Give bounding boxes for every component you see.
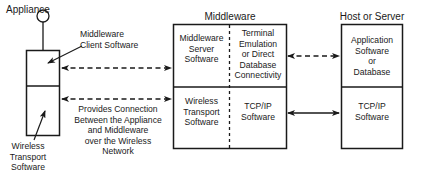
middleware-wireless-transport: Wireless Transport Software — [174, 96, 229, 128]
middleware-tcpip: TCP/IP Software — [230, 101, 286, 122]
terminal-emulation-db: Terminal Emulation or Direct Database Co… — [230, 28, 286, 81]
middleware-server-software: Middleware Server Software — [174, 33, 229, 65]
appliance-box — [27, 51, 60, 136]
appliance-title: Appliance — [6, 4, 50, 16]
link-description: Provides Connection Between the Applianc… — [64, 104, 172, 157]
host-tcpip: TCP/IP Software — [342, 101, 402, 122]
application-software-db: Application Software or Database — [342, 35, 402, 77]
callout-middleware-client: Middleware Client Software — [80, 29, 138, 50]
middleware-title: Middleware — [173, 11, 287, 23]
callout-wireless-transport: Wireless Transport Software — [4, 141, 52, 173]
host-title: Host or Server — [326, 11, 418, 23]
